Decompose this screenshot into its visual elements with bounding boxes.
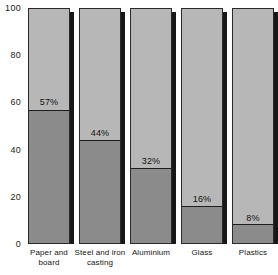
bar-fill-aluminium xyxy=(131,168,171,243)
bar-value-paper-and-board: 57% xyxy=(28,98,70,107)
bar-track-plastics[interactable] xyxy=(232,8,274,244)
bar-slot-steel-and-iron-casting: 44% xyxy=(79,0,121,244)
x-axis-label-plastics: Plastics xyxy=(223,248,278,258)
y-axis-tick-80: 80 xyxy=(10,51,21,60)
bar-slot-aluminium: 32% xyxy=(130,0,172,244)
plot-area: 57% 44% 32% 16% xyxy=(24,0,278,244)
bar-fill-glass xyxy=(182,206,222,243)
bar-value-aluminium: 32% xyxy=(130,157,172,166)
y-axis: 100 80 60 40 20 0 xyxy=(0,0,24,244)
bar-value-plastics: 8% xyxy=(232,214,274,223)
bar-fill-paper-and-board xyxy=(29,110,69,243)
bar-fill-steel-and-iron-casting xyxy=(80,140,120,243)
bar-chart: 100 80 60 40 20 0 57% 44% 32% xyxy=(0,0,278,275)
bar-value-glass: 16% xyxy=(181,195,223,204)
bar-slot-paper-and-board: 57% xyxy=(28,0,70,244)
y-axis-tick-40: 40 xyxy=(10,145,21,154)
bar-track-paper-and-board[interactable] xyxy=(28,8,70,244)
bar-track-glass[interactable] xyxy=(181,8,223,244)
bar-value-steel-and-iron-casting: 44% xyxy=(79,129,121,138)
bar-slot-glass: 16% xyxy=(181,0,223,244)
y-axis-tick-20: 20 xyxy=(10,192,21,201)
bar-track-steel-and-iron-casting[interactable] xyxy=(79,8,121,244)
bar-fill-plastics xyxy=(233,224,273,243)
bar-slot-plastics: 8% xyxy=(232,0,274,244)
bar-track-aluminium[interactable] xyxy=(130,8,172,244)
x-axis-category-labels: Paper and board Steel and iron casting A… xyxy=(24,248,278,275)
y-axis-tick-100: 100 xyxy=(5,4,21,13)
y-axis-tick-60: 60 xyxy=(10,98,21,107)
